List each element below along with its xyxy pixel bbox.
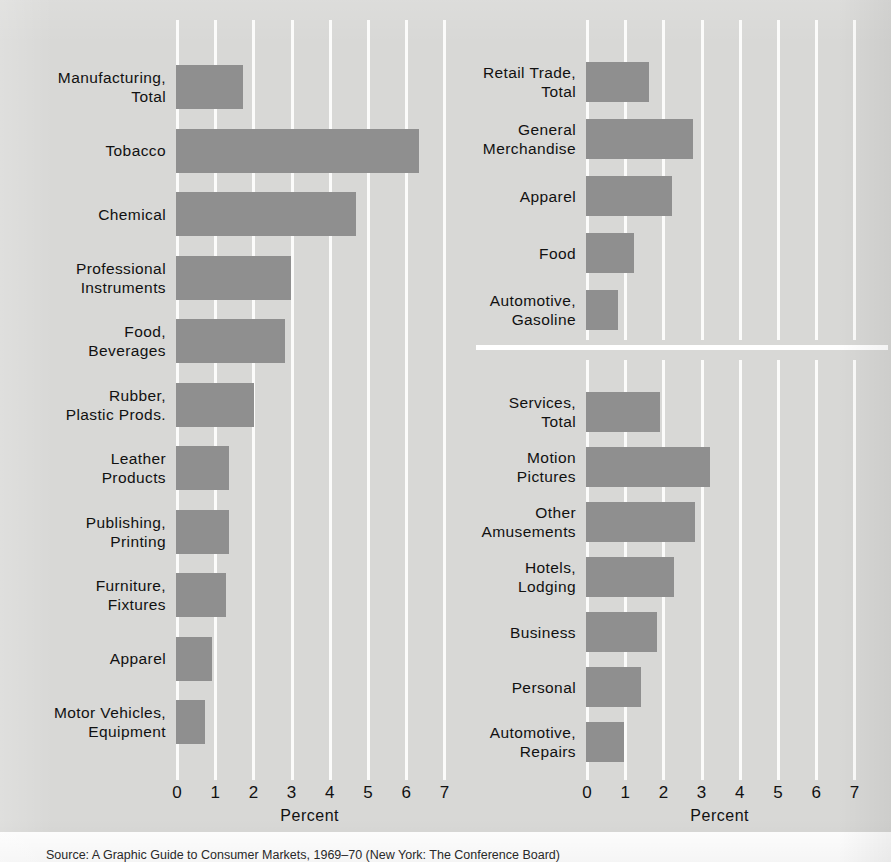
axis-tick-label: 0 [575,783,599,803]
axis-tick [624,769,627,780]
bar-category-label: Retail Trade, Total [426,63,576,101]
panel-manufacturing: Manufacturing, TotalTobaccoChemicalProfe… [0,20,470,780]
bar-category-label: Automotive, Repairs [426,723,576,761]
bar [586,176,672,216]
bar-row: Leather Products [0,446,470,510]
bar [176,192,356,236]
bar-row: General Merchandise [470,119,891,176]
bar [586,612,657,652]
bar [586,557,674,597]
bar-row: Automotive, Repairs [470,722,891,777]
axis-tick [214,769,217,780]
axis-tick [291,769,294,780]
bar [586,290,618,330]
bar-row: Automotive, Gasoline [470,290,891,347]
bar [586,722,624,762]
bar-row: Food, Beverages [0,319,470,383]
bar-row: Retail Trade, Total [470,62,891,119]
axis-tick-label: 0 [165,783,189,803]
bar [586,667,641,707]
axis-tick [777,769,780,780]
bar [176,319,285,363]
bar-row: Rubber, Plastic Prods. [0,383,470,447]
bar-row: Professional Instruments [0,256,470,320]
bar [586,392,660,432]
axis-tick-label: 4 [318,783,342,803]
chart-figure: Manufacturing, TotalTobaccoChemicalProfe… [0,0,891,862]
bar [586,233,634,273]
bar [586,119,693,159]
bar-category-label: Publishing, Printing [6,513,166,551]
axis-title: Percent [270,807,350,825]
bar-row: Hotels, Lodging [470,557,891,612]
bar-row: Food [470,233,891,290]
bar-category-label: Personal [426,678,576,697]
axis-tick [586,769,589,780]
bar [586,502,695,542]
x-axis-left: 01234567Percent [0,775,470,825]
bar-category-label: General Merchandise [426,120,576,158]
bar-row: Tobacco [0,129,470,193]
bar [586,447,710,487]
bar [176,510,229,554]
bar-row: Publishing, Printing [0,510,470,574]
bar-category-label: Motion Pictures [426,448,576,486]
bar-category-label: Apparel [426,187,576,206]
bar-category-label: Professional Instruments [6,259,166,297]
axis-tick-label: 5 [766,783,790,803]
panel-divider [476,345,888,350]
bar [176,129,419,173]
source-note: Source: A Graphic Guide to Consumer Mark… [46,848,560,862]
bar-row: Chemical [0,192,470,256]
axis-tick [853,769,856,780]
panel-services: Services, TotalMotion PicturesOther Amus… [470,360,891,780]
bar [176,256,291,300]
bar-row: Motor Vehicles, Equipment [0,700,470,764]
bar [176,65,243,109]
bar-category-label: Leather Products [6,449,166,487]
bar-category-label: Other Amusements [426,503,576,541]
bar-category-label: Apparel [6,649,166,668]
bar-row: Apparel [470,176,891,233]
axis-tick-label: 1 [203,783,227,803]
bar-row: Manufacturing, Total [0,65,470,129]
axis-title: Percent [680,807,760,825]
bar-category-label: Motor Vehicles, Equipment [6,703,166,741]
axis-tick [815,769,818,780]
bar-category-label: Food [426,244,576,263]
bar-row: Business [470,612,891,667]
bar [176,700,205,744]
panel-retail-trade: Retail Trade, TotalGeneral MerchandiseAp… [470,20,891,340]
axis-tick-label: 2 [651,783,675,803]
axis-tick-label: 6 [394,783,418,803]
axis-tick-label: 7 [432,783,456,803]
axis-tick-label: 3 [280,783,304,803]
bar [176,446,229,490]
axis-tick-label: 1 [613,783,637,803]
bar-category-label: Furniture, Fixtures [6,576,166,614]
bar-category-label: Manufacturing, Total [6,68,166,106]
bar-row: Other Amusements [470,502,891,557]
axis-tick-label: 6 [804,783,828,803]
axis-tick-label: 2 [241,783,265,803]
bar-category-label: Services, Total [426,393,576,431]
bar-row: Services, Total [470,392,891,447]
bar-category-label: Automotive, Gasoline [426,291,576,329]
axis-tick [443,769,446,780]
axis-tick [329,769,332,780]
axis-tick-label: 5 [356,783,380,803]
bar-category-label: Hotels, Lodging [426,558,576,596]
axis-tick [662,769,665,780]
axis-tick [405,769,408,780]
bar [176,573,226,617]
bar [176,637,212,681]
bar-category-label: Chemical [6,205,166,224]
axis-tick [367,769,370,780]
bar-row: Apparel [0,637,470,701]
x-axis-right: 01234567Percent [470,775,891,825]
axis-tick-label: 7 [842,783,866,803]
axis-tick [739,769,742,780]
bar-category-label: Food, Beverages [6,322,166,360]
bar-row: Motion Pictures [470,447,891,502]
axis-tick [701,769,704,780]
